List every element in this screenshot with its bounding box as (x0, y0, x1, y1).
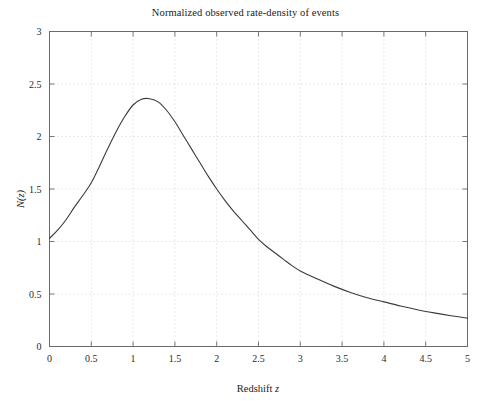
y-tick-label: 2 (37, 131, 42, 142)
x-tick-label: 4.5 (419, 353, 432, 364)
x-tick-label: 3 (298, 353, 303, 364)
x-tick-label: 0.5 (85, 353, 98, 364)
x-tick-label: 0 (47, 353, 52, 364)
y-tick-label: 2.5 (29, 79, 42, 90)
x-tick-label: 1.5 (169, 353, 182, 364)
x-tick-label: 2 (214, 353, 219, 364)
gridlines (50, 32, 468, 347)
x-tick-label: 3.5 (336, 353, 349, 364)
y-tick-label: 0 (37, 341, 42, 352)
x-tick-label: 1 (131, 353, 136, 364)
chart-figure: Normalized observed rate-density of even… (0, 0, 491, 412)
x-tick-label: 4 (381, 353, 386, 364)
y-axis-title: N(z) (15, 189, 27, 209)
y-tick-label: 1 (37, 236, 42, 247)
x-tick-label: 5 (465, 353, 470, 364)
x-axis-title: Redshift z (237, 383, 279, 394)
x-tick-label: 2.5 (252, 353, 265, 364)
y-tick-label: 3 (37, 26, 42, 37)
plot-area: 00.511.522.533.544.55 00.511.522.53 Reds… (0, 0, 491, 412)
y-tick-labels: 00.511.522.53 (29, 26, 42, 352)
x-tick-labels: 00.511.522.533.544.55 (47, 353, 470, 364)
y-tick-label: 0.5 (29, 289, 42, 300)
y-tick-label: 1.5 (29, 184, 42, 195)
